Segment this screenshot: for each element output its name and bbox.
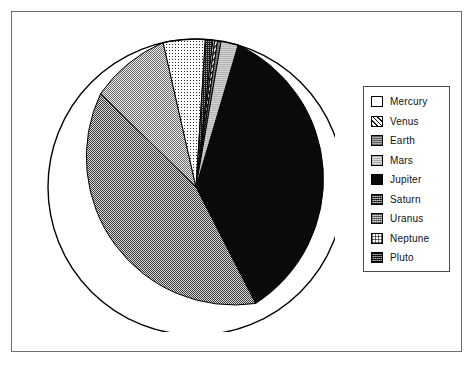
legend-label-venus: Venus [390, 116, 419, 127]
legend-swatch-uranus [371, 213, 383, 224]
pie-chart-svg [37, 20, 335, 332]
legend-swatch-jupiter [371, 174, 383, 185]
legend-swatch-neptune [371, 233, 383, 244]
legend-swatch-mercury [371, 96, 383, 107]
chart-frame: Mercury Venus Earth Mars Jupiter Saturn … [11, 11, 462, 352]
legend: Mercury Venus Earth Mars Jupiter Saturn … [363, 86, 450, 272]
legend-label-uranus: Uranus [390, 213, 423, 224]
legend-item-jupiter[interactable]: Jupiter [364, 170, 449, 190]
legend-swatch-saturn [371, 194, 383, 205]
legend-label-earth: Earth [390, 135, 415, 146]
legend-item-venus[interactable]: Venus [364, 112, 449, 132]
legend-label-saturn: Saturn [390, 194, 421, 205]
legend-item-earth[interactable]: Earth [364, 131, 449, 151]
legend-item-neptune[interactable]: Neptune [364, 229, 449, 249]
legend-item-uranus[interactable]: Uranus [364, 209, 449, 229]
legend-item-mercury[interactable]: Mercury [364, 92, 449, 112]
legend-item-mars[interactable]: Mars [364, 151, 449, 171]
legend-label-mars: Mars [390, 155, 413, 166]
pie-slices [86, 39, 323, 305]
legend-swatch-earth [371, 135, 383, 146]
legend-label-neptune: Neptune [390, 233, 429, 244]
legend-label-mercury: Mercury [390, 96, 428, 107]
legend-swatch-pluto [371, 252, 383, 263]
legend-swatch-venus [371, 116, 383, 127]
pie-chart [37, 20, 335, 332]
legend-label-jupiter: Jupiter [390, 174, 421, 185]
legend-item-pluto[interactable]: Pluto [364, 248, 449, 268]
legend-label-pluto: Pluto [390, 252, 414, 263]
legend-item-saturn[interactable]: Saturn [364, 190, 449, 210]
legend-swatch-mars [371, 155, 383, 166]
